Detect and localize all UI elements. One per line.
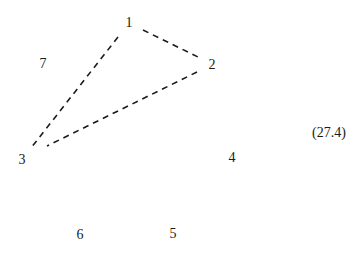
edge-2-3 (47, 72, 197, 146)
node-label-7: 7 (40, 57, 47, 71)
node-label-4: 4 (229, 151, 236, 165)
edge-1-2 (143, 30, 198, 57)
node-label-3: 3 (19, 153, 26, 167)
node-label-5: 5 (170, 227, 177, 241)
equation-number: (27.4) (312, 126, 346, 140)
graph-diagram: 1 2 3 4 5 6 7 (27.4) (0, 0, 360, 255)
node-label-2: 2 (209, 58, 216, 72)
edge-1-3 (31, 37, 118, 148)
edge-layer (0, 0, 360, 255)
node-label-1: 1 (126, 16, 133, 30)
node-label-6: 6 (77, 228, 84, 242)
